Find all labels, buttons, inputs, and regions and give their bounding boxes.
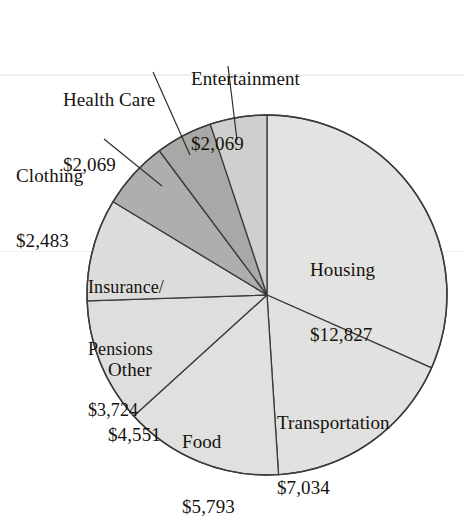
slice-label-health-care-name: Health Care [63,89,155,111]
slice-label-transportation-name: Transportation [277,412,390,434]
slice-label-entertainment: Entertainment $2,069 [191,25,300,198]
slice-label-entertainment-name: Entertainment [191,68,300,90]
slice-label-housing: Housing $12,827 [310,216,375,389]
slice-label-other-name: Other [108,359,161,381]
slice-label-clothing: Clothing $2,483 [16,122,83,295]
slice-label-other-value: $4,551 [108,424,161,446]
slice-label-clothing-value: $2,483 [16,230,83,252]
slice-label-transportation: Transportation $7,034 [277,369,390,520]
slice-label-housing-value: $12,827 [310,324,375,346]
slice-label-food-name: Food [182,431,235,453]
slice-label-insurance-pensions-name1: Insurance/ [88,277,164,298]
slice-label-food: Food $5,793 [182,388,235,520]
slice-label-food-value: $5,793 [182,496,235,518]
slice-label-housing-name: Housing [310,259,375,281]
slice-label-other: Other $4,551 [108,316,161,489]
slice-label-entertainment-value: $2,069 [191,133,300,155]
slice-label-clothing-name: Clothing [16,165,83,187]
slice-label-transportation-value: $7,034 [277,477,390,499]
